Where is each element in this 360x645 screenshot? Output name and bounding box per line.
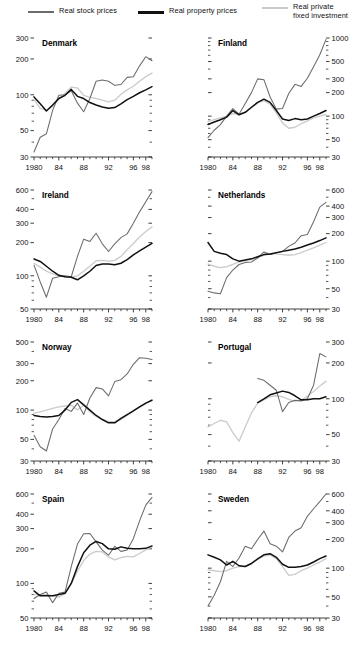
x-tick-label: 98	[316, 624, 324, 633]
x-tick-label: 88	[79, 624, 87, 633]
x-tick-label: 96	[303, 624, 311, 633]
y-tick-label: 200	[332, 229, 345, 238]
y-tick-label: 500	[16, 338, 29, 347]
panel-portugal: 198084889296983050100200300Portugal	[180, 332, 360, 487]
line-swatch-icon	[28, 11, 54, 13]
y-tick-label: 100	[16, 406, 29, 415]
panel-sweden: 198084889296983050100200300400600Sweden	[180, 484, 360, 644]
series-line-property	[34, 541, 152, 595]
y-tick-label: 50	[20, 126, 28, 135]
y-tick-label: 300	[16, 359, 29, 368]
x-tick-label: 1980	[200, 467, 217, 476]
y-tick-label: 50	[332, 285, 340, 294]
series-line-stock	[258, 354, 326, 412]
x-tick-label: 92	[104, 624, 112, 633]
x-tick-label: 98	[142, 315, 150, 324]
y-tick-label: 300	[16, 524, 29, 533]
panel-norway: 198084889296983050100200300500Norway	[0, 332, 180, 487]
y-tick-label: 1000	[332, 34, 349, 43]
y-tick-label: 50	[20, 305, 28, 314]
y-tick-label: 400	[16, 205, 29, 214]
y-tick-label: 300	[332, 338, 345, 347]
line-swatch-icon	[138, 11, 164, 14]
x-tick-label: 84	[229, 467, 237, 476]
y-tick-label: 50	[332, 430, 340, 439]
series-line-stock	[34, 192, 152, 298]
y-tick-label: 50	[332, 135, 340, 144]
panel-finland: 1980848892969830501002003005001000Finlan…	[180, 28, 360, 183]
series-line-property	[34, 400, 152, 423]
panel-title: Spain	[42, 495, 64, 504]
y-tick-label: 30	[20, 153, 28, 162]
x-tick-label: 84	[55, 624, 63, 633]
series-line-stock	[208, 494, 326, 606]
series-line-investment	[208, 381, 326, 441]
legend-label-investment: Real private fixed investment	[288, 2, 348, 20]
y-tick-label: 400	[332, 507, 345, 516]
x-tick-label: 96	[303, 467, 311, 476]
legend-item-stock: Real stock prices	[28, 6, 117, 15]
y-tick-label: 200	[332, 535, 345, 544]
y-tick-label: 300	[332, 213, 345, 222]
y-tick-label: 600	[332, 490, 345, 499]
x-tick-label: 92	[278, 467, 286, 476]
y-tick-label: 100	[332, 257, 345, 266]
chart-page: Real stock prices Real property prices R…	[0, 0, 360, 645]
x-tick-label: 88	[253, 315, 261, 324]
y-tick-label: 300	[16, 34, 29, 43]
x-tick-label: 92	[278, 163, 286, 172]
y-tick-label: 30	[20, 457, 28, 466]
panel-title: Sweden	[218, 495, 249, 504]
x-tick-label: 92	[104, 467, 112, 476]
y-tick-label: 200	[16, 377, 29, 386]
x-tick-label: 84	[229, 163, 237, 172]
x-tick-label: 1980	[200, 315, 217, 324]
x-tick-label: 88	[253, 163, 261, 172]
x-tick-label: 96	[129, 315, 137, 324]
panel-denmark: 198084889296983050100200300Denmark	[0, 28, 180, 183]
y-tick-label: 100	[16, 272, 29, 281]
x-tick-label: 96	[129, 624, 137, 633]
panel-title: Ireland	[42, 191, 69, 200]
y-tick-label: 600	[16, 490, 29, 499]
series-line-investment	[34, 73, 152, 110]
y-tick-label: 200	[16, 238, 29, 247]
y-tick-label: 200	[16, 55, 29, 64]
y-tick-label: 50	[332, 593, 340, 602]
x-tick-label: 84	[55, 467, 63, 476]
x-tick-label: 88	[79, 315, 87, 324]
x-tick-label: 84	[229, 315, 237, 324]
x-tick-label: 84	[55, 163, 63, 172]
y-tick-label: 100	[332, 564, 345, 573]
y-tick-label: 200	[332, 359, 345, 368]
x-tick-label: 96	[303, 315, 311, 324]
legend-item-property: Real property prices	[138, 6, 237, 15]
x-tick-label: 98	[316, 163, 324, 172]
x-tick-label: 88	[253, 624, 261, 633]
x-tick-label: 84	[229, 624, 237, 633]
legend-label-property: Real property prices	[164, 6, 237, 15]
x-tick-label: 96	[129, 163, 137, 172]
series-line-stock	[34, 497, 152, 602]
x-tick-label: 96	[129, 467, 137, 476]
x-tick-label: 88	[79, 467, 87, 476]
y-tick-label: 50	[20, 614, 28, 623]
x-tick-label: 88	[253, 467, 261, 476]
series-line-investment	[34, 547, 152, 597]
x-tick-label: 92	[278, 315, 286, 324]
y-tick-label: 100	[332, 112, 345, 121]
panel-ireland: 1980848892969850100200300400600Ireland	[0, 180, 180, 335]
panel-spain: 1980848892969850100200300400600Spain	[0, 484, 180, 644]
y-tick-label: 400	[332, 202, 345, 211]
y-tick-label: 30	[332, 614, 340, 623]
x-tick-label: 92	[104, 315, 112, 324]
y-tick-label: 500	[332, 57, 345, 66]
panel-title: Netherlands	[218, 191, 266, 200]
x-tick-label: 98	[142, 467, 150, 476]
x-tick-label: 1980	[26, 163, 43, 172]
y-tick-label: 50	[20, 435, 28, 444]
x-tick-label: 1980	[26, 315, 43, 324]
x-tick-label: 92	[104, 163, 112, 172]
legend-label-stock: Real stock prices	[54, 6, 117, 15]
y-tick-label: 30	[332, 457, 340, 466]
